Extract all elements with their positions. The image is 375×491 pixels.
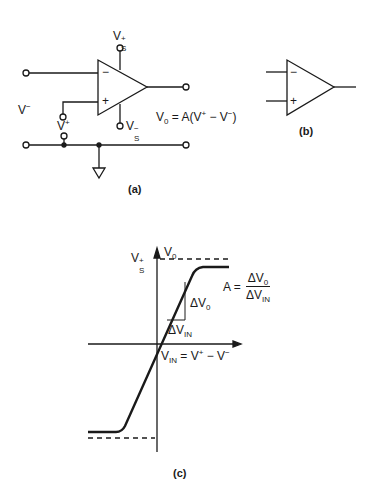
ground-symbol: [93, 168, 105, 178]
v-minus-label: V−: [18, 104, 31, 116]
figure-b-opamp: [266, 60, 356, 115]
output-terminal: [183, 84, 189, 90]
noninverting-sign-b: +: [290, 95, 297, 107]
inverting-sign-b: −: [290, 66, 297, 78]
rail-right-terminal: [183, 142, 189, 148]
y-axis-label: V0: [164, 246, 176, 258]
vs-plus-label: V+S: [113, 30, 128, 42]
gain-formula: A = ΔV0 ΔVIN: [223, 272, 272, 301]
delta-vo-label: ΔV0: [190, 297, 210, 309]
caption-a: (a): [128, 184, 141, 195]
caption-b: (b): [299, 126, 313, 137]
x-axis-label: VIN = V+ − V−: [161, 350, 230, 362]
inverting-sign-a: −: [102, 66, 109, 78]
saturation-label: V+S: [131, 252, 146, 264]
diagram-canvas: [0, 0, 375, 491]
rail-left-terminal: [23, 142, 29, 148]
caption-c: (c): [173, 468, 186, 479]
vplus-terminal: [61, 133, 67, 139]
vs-minus-terminal: [117, 123, 123, 129]
vs-minus-label: V−S: [126, 120, 141, 132]
input-terminal-inverting: [23, 70, 29, 76]
gain-equation: V0 = A(V+ − V−): [156, 111, 237, 123]
noninverting-sign-a: +: [102, 95, 109, 107]
junction-dot: [62, 143, 66, 147]
delta-vin-label: ΔVIN: [168, 324, 192, 336]
v-plus-label: V+: [57, 120, 70, 132]
